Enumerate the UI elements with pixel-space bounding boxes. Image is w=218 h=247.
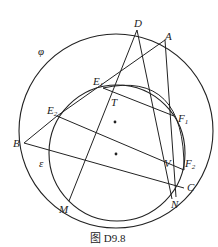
circle-phi [19, 34, 213, 228]
label-F2: F2 [184, 157, 196, 171]
label-F1: F1 [177, 112, 188, 126]
label-B: B [13, 137, 20, 149]
label-D: D [133, 17, 142, 29]
label-E1: E1 [92, 75, 103, 89]
center-dot-2 [115, 153, 118, 156]
label-M: M [58, 203, 69, 215]
label-A: A [164, 30, 172, 42]
line-BC [24, 143, 184, 188]
figure-caption: 图 D9.8 [90, 232, 126, 244]
geometry-figure: φ ε D A E1 E2 T F1 B V F2 C M N 图 D9.8 [0, 0, 218, 247]
label-epsilon: ε [39, 157, 44, 169]
label-C: C [187, 181, 195, 193]
line-BE2 [24, 116, 57, 143]
line-DM [69, 30, 137, 201]
label-V: V [164, 157, 172, 169]
center-dot-1 [114, 121, 117, 124]
label-N: N [170, 198, 179, 210]
label-phi: φ [38, 45, 44, 57]
label-T: T [111, 96, 118, 108]
label-E2: E2 [46, 104, 58, 118]
line-DN [137, 30, 172, 199]
